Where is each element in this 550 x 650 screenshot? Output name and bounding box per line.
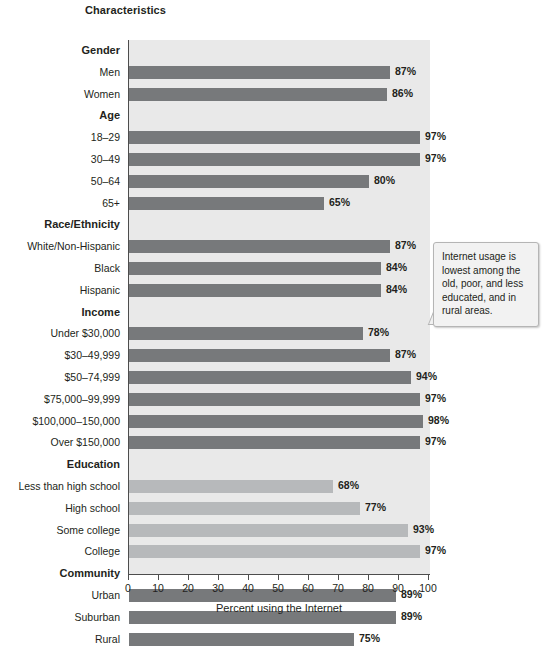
bar-row: 30–4997% — [0, 149, 550, 171]
bar — [129, 175, 369, 188]
bar-value-label: 65% — [329, 196, 350, 208]
category-label: Urban — [0, 589, 120, 601]
bar-value-label: 87% — [395, 348, 416, 360]
category-label: Less than high school — [0, 480, 120, 492]
bar-value-label: 86% — [392, 87, 413, 99]
x-tick-label: 90 — [383, 582, 413, 594]
bar — [129, 88, 387, 101]
bar-row: $50–74,99994% — [0, 367, 550, 389]
x-tick — [248, 575, 249, 580]
x-tick-label: 80 — [353, 582, 383, 594]
x-tick — [428, 575, 429, 580]
bar — [129, 197, 324, 210]
bar — [129, 633, 354, 646]
x-tick-label: 60 — [293, 582, 323, 594]
bar — [129, 436, 420, 449]
bar-value-label: 68% — [338, 479, 359, 491]
category-label: $30–49,999 — [0, 349, 120, 361]
x-tick — [368, 575, 369, 580]
bar-value-label: 97% — [425, 435, 446, 447]
bar-row: $100,000–150,00098% — [0, 411, 550, 433]
x-tick-label: 10 — [143, 582, 173, 594]
x-tick — [308, 575, 309, 580]
group-label: Race/Ethnicity — [0, 218, 120, 230]
bar-value-label: 97% — [425, 152, 446, 164]
group-label: Community — [0, 567, 120, 579]
bar-row: Less than high school68% — [0, 476, 550, 498]
category-label: Men — [0, 66, 120, 78]
bar — [129, 371, 411, 384]
annotation-callout: Internet usage is lowest among the old, … — [433, 242, 539, 327]
bar-value-label: 97% — [425, 544, 446, 556]
x-tick — [398, 575, 399, 580]
bar-value-label: 80% — [374, 174, 395, 186]
bar — [129, 524, 408, 537]
x-tick-label: 70 — [323, 582, 353, 594]
bar-value-label: 77% — [365, 501, 386, 513]
bar — [129, 349, 390, 362]
bar — [129, 480, 333, 493]
bar-row: 18–2997% — [0, 127, 550, 149]
bar-value-label: 97% — [425, 392, 446, 404]
category-label: Rural — [0, 633, 120, 645]
category-label: High school — [0, 502, 120, 514]
group-header-age: Age — [0, 105, 550, 127]
bar-row: Men87% — [0, 62, 550, 84]
category-label: College — [0, 545, 120, 557]
bar-value-label: 87% — [395, 239, 416, 251]
category-label: Women — [0, 88, 120, 100]
category-label: White/Non-Hispanic — [0, 240, 120, 252]
bar-row: $30–49,99987% — [0, 345, 550, 367]
bar — [129, 327, 363, 340]
group-header-gender: Gender — [0, 40, 550, 62]
bar-value-label: 75% — [359, 632, 380, 644]
x-tick-label: 0 — [113, 582, 143, 594]
x-tick-label: 50 — [263, 582, 293, 594]
group-label: Education — [0, 458, 120, 470]
x-tick — [218, 575, 219, 580]
x-tick — [158, 575, 159, 580]
bar-value-label: 98% — [428, 414, 449, 426]
bar — [129, 284, 381, 297]
category-label: Black — [0, 262, 120, 274]
category-label: 30–49 — [0, 153, 120, 165]
category-label: Hispanic — [0, 284, 120, 296]
bar-row: 65+65% — [0, 193, 550, 215]
bar-value-label: 84% — [386, 283, 407, 295]
category-label: Over $150,000 — [0, 436, 120, 448]
category-label: $75,000–99,999 — [0, 393, 120, 405]
x-tick — [278, 575, 279, 580]
x-tick-label: 30 — [203, 582, 233, 594]
characteristics-heading: Characteristics — [0, 4, 166, 16]
bar-row: Women86% — [0, 84, 550, 106]
x-tick-label: 40 — [233, 582, 263, 594]
bar — [129, 502, 360, 515]
bar-row: $75,000–99,99997% — [0, 389, 550, 411]
bar — [129, 262, 381, 275]
x-tick — [188, 575, 189, 580]
category-label: 18–29 — [0, 131, 120, 143]
bar-value-label: 97% — [425, 130, 446, 142]
bar — [129, 131, 420, 144]
bar-row: Rural75% — [0, 629, 550, 650]
bar — [129, 545, 420, 558]
group-label: Income — [0, 306, 120, 318]
category-label: 50–64 — [0, 175, 120, 187]
bar — [129, 66, 390, 79]
bar-value-label: 94% — [416, 370, 437, 382]
category-label: 65+ — [0, 197, 120, 209]
group-header-education: Education — [0, 454, 550, 476]
bar — [129, 415, 423, 428]
category-label: Some college — [0, 524, 120, 536]
bar-row: High school77% — [0, 498, 550, 520]
group-label: Age — [0, 109, 120, 121]
bar-value-label: 78% — [368, 326, 389, 338]
bar-row: College97% — [0, 541, 550, 563]
bar-value-label: 93% — [413, 523, 434, 535]
bar-value-label: 84% — [386, 261, 407, 273]
x-tick — [338, 575, 339, 580]
x-axis-title: Percent using the Internet — [128, 602, 430, 614]
bar — [129, 240, 390, 253]
bar — [129, 153, 420, 166]
x-tick-label: 100 — [413, 582, 443, 594]
